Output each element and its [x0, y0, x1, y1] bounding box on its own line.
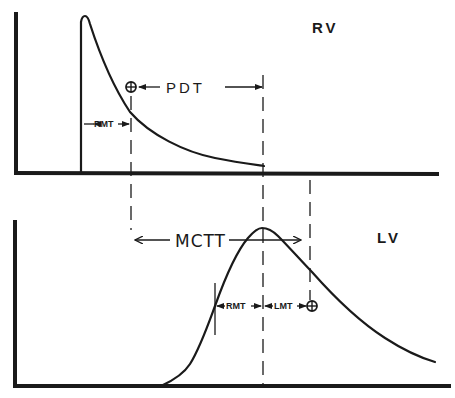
- rv-mean-circled-plus-icon: [126, 82, 136, 92]
- pdt-label: PDT: [166, 79, 205, 96]
- mctt-label: MCTT: [175, 231, 226, 251]
- lv-mean-circled-plus-icon: [307, 301, 317, 311]
- rv-panel: RV RMT PDT: [14, 12, 439, 230]
- lv-panel: LV RMT LMT: [13, 220, 451, 386]
- lmt-label: LMT: [274, 301, 293, 311]
- rmt-top-marker: RMT: [84, 119, 129, 129]
- lv-curve: [161, 228, 435, 386]
- pdt-interval: PDT: [139, 79, 262, 96]
- rmt-bottom-label: RMT: [226, 301, 246, 311]
- lmt-marker: LMT: [265, 301, 306, 311]
- rmt-bottom-marker: RMT: [217, 301, 261, 311]
- indicator-dilution-diagram: RV RMT PDT MCTT: [0, 0, 455, 398]
- rv-label: RV: [312, 19, 339, 36]
- lv-label: LV: [377, 229, 401, 246]
- rmt-top-label: RMT: [94, 119, 114, 129]
- mctt-interval: MCTT: [135, 180, 310, 300]
- rv-x-axis: [14, 173, 439, 174]
